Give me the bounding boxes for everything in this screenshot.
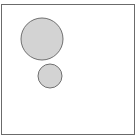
small-circle bbox=[38, 64, 62, 88]
large-circle bbox=[21, 18, 63, 60]
diagram-canvas bbox=[0, 0, 137, 140]
